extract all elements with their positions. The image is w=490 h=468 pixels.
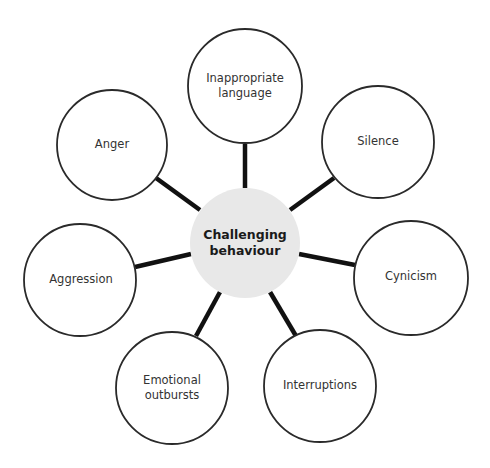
spoke-interruptions — [270, 292, 296, 336]
node-label-line1: Silence — [357, 134, 398, 149]
spider-diagram: Challenging behaviour Inappropriate lang… — [0, 0, 490, 468]
node-label-line2: language — [206, 86, 284, 101]
node-label-emotional-outbursts: Emotional outbursts — [143, 373, 201, 403]
hub-label: Challenging behaviour — [203, 227, 287, 259]
node-label-anger: Anger — [95, 137, 129, 152]
node-label-aggression: Aggression — [49, 272, 113, 287]
hub-label-line1: Challenging — [203, 227, 287, 243]
node-label-silence: Silence — [357, 134, 398, 149]
node-label-line1: Aggression — [49, 272, 113, 287]
spoke-anger — [156, 178, 200, 210]
node-label-line2: outbursts — [143, 388, 201, 403]
node-label-line1: Inappropriate — [206, 71, 284, 86]
node-label-cynicism: Cynicism — [385, 269, 437, 284]
node-label-line1: Interruptions — [283, 378, 357, 393]
spoke-aggression — [135, 254, 191, 267]
hub-label-line2: behaviour — [203, 243, 287, 259]
node-label-line1: Cynicism — [385, 269, 437, 284]
node-label-inappropriate-language: Inappropriate language — [206, 71, 284, 101]
spoke-silence — [290, 178, 334, 210]
spoke-emotional-outbursts — [196, 292, 220, 336]
spoke-cynicism — [299, 254, 355, 265]
node-label-line1: Emotional — [143, 373, 201, 388]
node-label-line1: Anger — [95, 137, 129, 152]
node-label-interruptions: Interruptions — [283, 378, 357, 393]
